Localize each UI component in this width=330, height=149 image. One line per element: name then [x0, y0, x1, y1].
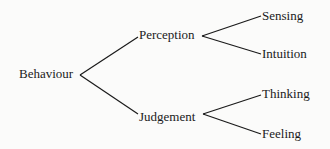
node-feeling: Feeling	[262, 127, 301, 141]
edge-behaviour-judgement	[80, 75, 138, 114]
node-thinking: Thinking	[262, 87, 310, 101]
edge-perception-sensing	[202, 16, 261, 36]
tree-diagram: Behaviour Perception Judgement Sensing I…	[0, 0, 330, 149]
node-sensing: Sensing	[262, 9, 303, 23]
node-behaviour: Behaviour	[19, 67, 73, 81]
edge-behaviour-perception	[80, 37, 138, 75]
edge-perception-intuition	[202, 36, 261, 54]
node-perception: Perception	[139, 28, 195, 42]
node-judgement: Judgement	[139, 110, 195, 124]
edge-judgement-feeling	[203, 114, 261, 134]
node-intuition: Intuition	[262, 47, 307, 61]
edge-judgement-thinking	[203, 95, 261, 114]
